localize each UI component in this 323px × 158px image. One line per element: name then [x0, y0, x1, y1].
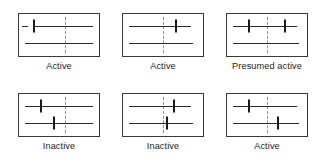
panel-border: [18, 13, 100, 57]
interval-line: [34, 26, 92, 27]
panel-label: Active: [122, 61, 204, 71]
panel-border: [122, 93, 204, 137]
reference-line: [65, 17, 66, 53]
interval-line: [233, 106, 298, 107]
point-estimate-tick: [277, 117, 279, 130]
interval-stub: [22, 26, 28, 27]
interval-line: [129, 26, 191, 27]
panel-2: Active: [122, 13, 204, 57]
point-estimate-tick: [284, 19, 286, 32]
interval-line: [129, 106, 191, 107]
interval-line: [233, 26, 297, 27]
panel-1: Active: [18, 13, 100, 57]
interval-line: [25, 123, 93, 124]
panel-5: Inactive: [122, 93, 204, 137]
point-estimate-tick: [40, 99, 42, 112]
point-estimate-tick: [248, 19, 250, 32]
panel-border: [122, 13, 204, 57]
reference-line: [267, 17, 268, 53]
reference-line: [267, 97, 268, 133]
interval-line: [129, 43, 194, 44]
point-estimate-tick: [53, 117, 55, 130]
interval-line: [233, 123, 299, 124]
interval-line: [25, 106, 93, 107]
panel-6: Active: [226, 93, 308, 137]
point-estimate-tick: [166, 117, 168, 130]
interval-line: [25, 43, 93, 44]
panel-label: Presumed active: [226, 61, 308, 71]
point-estimate-tick: [175, 19, 177, 32]
point-estimate-tick: [248, 99, 250, 112]
interval-line: [233, 43, 299, 44]
reference-line: [65, 97, 66, 133]
panel-3: Presumed active: [226, 13, 308, 57]
reference-line: [163, 17, 164, 53]
panel-label: Active: [226, 141, 308, 151]
forest-plot-figure: ActiveActivePresumed activeInactiveInact…: [0, 0, 323, 158]
panel-4: Inactive: [18, 93, 100, 137]
panel-border: [226, 13, 308, 57]
panel-label: Active: [18, 61, 100, 71]
panel-border: [18, 93, 100, 137]
point-estimate-tick: [173, 99, 175, 112]
panel-label: Inactive: [122, 141, 204, 151]
panel-border: [226, 93, 308, 137]
reference-line: [163, 97, 164, 133]
point-estimate-tick: [33, 19, 35, 32]
panel-label: Inactive: [18, 141, 100, 151]
interval-line: [129, 123, 194, 124]
